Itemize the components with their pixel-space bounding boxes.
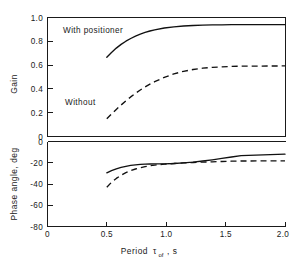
gain-ticklabel-0_6: 0.6 — [31, 61, 43, 70]
gain-ticklabel-0_2: 0.2 — [31, 109, 43, 118]
x-ticks — [48, 222, 286, 227]
gain-curve-without — [107, 66, 285, 119]
phase-ticklabel-m20: -20 — [30, 159, 43, 168]
x-axis-title-period: Period — [121, 246, 148, 256]
x-ticklabel-2_0: 2.0 — [277, 230, 289, 239]
gain-ticklabel-0_8: 0.8 — [31, 37, 43, 46]
x-ticklabel-0_5: 0.5 — [101, 230, 113, 239]
gain-ticklabel-1_0: 1.0 — [31, 14, 43, 23]
gain-axis-title: Gain — [9, 74, 19, 94]
x-ticklabel-0: 0 — [45, 230, 50, 239]
chart-svg: 1.0 0.8 0.6 0.4 0.2 0 Gain With position… — [0, 0, 298, 267]
x-ticklabel-1_5: 1.5 — [220, 230, 232, 239]
gain-ticklabel-0_4: 0.4 — [31, 85, 43, 94]
annotation-without: Without — [65, 98, 96, 107]
phase-ticklabel-m40: -40 — [30, 180, 43, 189]
phase-ticklabel-m80: -80 — [30, 223, 43, 232]
x-ticklabel-1_0: 1.0 — [160, 230, 172, 239]
gain-y-ticks — [48, 18, 53, 137]
x-axis-title-tau: τ — [153, 246, 157, 256]
gain-curve-with-positioner — [107, 25, 285, 58]
x-axis-title-tau-subscript: of — [159, 252, 164, 258]
phase-panel-frame — [48, 142, 286, 227]
phase-axis-title: Phase angle, deg — [9, 147, 19, 220]
phase-ticklabel-m60: -60 — [30, 201, 43, 210]
annotation-with-positioner: With positioner — [63, 26, 123, 35]
x-axis-title: Period τ of , s — [121, 246, 178, 258]
phase-ticklabel-0: 0 — [38, 138, 43, 147]
phase-y-ticks — [48, 142, 53, 227]
phase-panel-axes — [48, 142, 286, 227]
figure-container: 1.0 0.8 0.6 0.4 0.2 0 Gain With position… — [0, 0, 298, 267]
x-axis-title-units: , s — [167, 246, 177, 256]
